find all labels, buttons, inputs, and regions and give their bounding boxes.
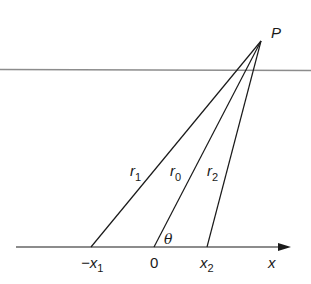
ray-r2 bbox=[207, 41, 261, 247]
x-axis-arrowhead bbox=[278, 243, 291, 251]
angle-theta-label: θ bbox=[164, 231, 173, 247]
ray-r0 bbox=[154, 41, 261, 247]
reference-line bbox=[0, 70, 311, 71]
geometry-diagram: P r1 r0 r2 θ −x1 0 x2 x bbox=[0, 0, 311, 284]
ray-r1 bbox=[91, 41, 261, 247]
foot-label-minus-x1: −x1 bbox=[81, 254, 103, 274]
ray-r1-label: r1 bbox=[130, 162, 141, 183]
point-p-label: P bbox=[271, 24, 281, 41]
foot-label-origin: 0 bbox=[150, 254, 158, 271]
ray-r2-label: r2 bbox=[207, 162, 218, 183]
ray-r0-label: r0 bbox=[170, 162, 181, 183]
diagram-canvas: P r1 r0 r2 θ −x1 0 x2 x bbox=[0, 0, 311, 284]
x-axis-label: x bbox=[267, 254, 276, 271]
foot-label-x2: x2 bbox=[199, 254, 214, 274]
